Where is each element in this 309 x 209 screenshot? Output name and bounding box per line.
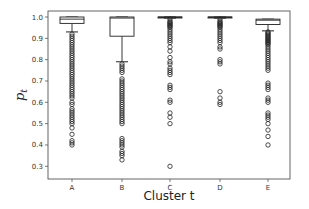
- box-body: [60, 17, 84, 23]
- y-tick-label: 0.6: [32, 99, 44, 107]
- outlier-point: [266, 128, 270, 132]
- x-tick-label: A: [70, 184, 75, 192]
- outlier-point: [120, 158, 124, 162]
- x-tick-label: D: [217, 184, 222, 192]
- svg-text:pt: pt: [12, 89, 29, 101]
- x-axis-title: Cluster t: [143, 189, 194, 203]
- box-body: [110, 17, 134, 36]
- outlier-point: [266, 121, 270, 125]
- y-tick-label: 0.5: [32, 120, 43, 128]
- y-tick-label: 0.3: [32, 163, 43, 171]
- y-tick-label: 0.4: [32, 141, 44, 149]
- outlier-point: [70, 126, 74, 130]
- x-tick-label: B: [120, 184, 125, 192]
- outlier-point: [218, 96, 222, 100]
- outlier-point: [266, 143, 270, 147]
- outlier-point: [266, 134, 270, 138]
- y-axis: 0.30.40.50.60.70.80.91.0: [32, 14, 48, 171]
- outlier-point: [168, 55, 172, 59]
- outlier-point: [168, 121, 172, 125]
- outlier-point: [168, 45, 172, 49]
- outlier-point: [70, 132, 74, 136]
- box-C: [158, 17, 182, 169]
- outlier-point: [168, 49, 172, 53]
- y-axis-title: pt: [12, 89, 29, 101]
- y-tick-label: 0.9: [32, 35, 43, 43]
- box-series: [60, 17, 280, 169]
- box-A: [60, 17, 84, 147]
- box-B: [110, 17, 134, 162]
- outlier-point: [218, 89, 222, 93]
- outlier-point: [168, 111, 172, 115]
- y-tick-label: 0.7: [32, 77, 43, 85]
- boxplot-chart: 0.30.40.50.60.70.80.91.0 ABCDE Cluster t…: [0, 0, 309, 209]
- outlier-point: [168, 164, 172, 168]
- box-E: [256, 19, 280, 147]
- y-tick-label: 0.8: [32, 56, 43, 64]
- y-tick-label: 1.0: [32, 14, 43, 22]
- box-D: [208, 17, 232, 107]
- x-tick-label: E: [266, 184, 270, 192]
- outlier-point: [168, 115, 172, 119]
